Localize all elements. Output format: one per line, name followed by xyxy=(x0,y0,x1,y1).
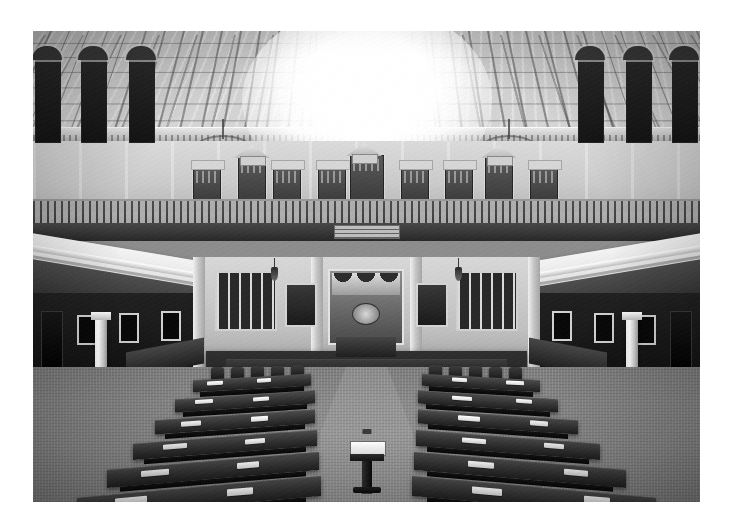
desk-papers xyxy=(141,469,169,477)
bay-window-left-2 xyxy=(81,57,107,143)
gallery-door-8 xyxy=(530,167,558,203)
gallery-door-1 xyxy=(193,167,221,203)
bay-window-left-1 xyxy=(35,57,61,143)
gallery-doorway-row xyxy=(33,151,700,203)
gallery-door-4 xyxy=(318,167,346,203)
door-panes xyxy=(276,171,298,183)
desk-papers xyxy=(544,443,564,450)
desk-papers xyxy=(163,443,187,450)
rear-portrait-right xyxy=(416,283,448,327)
door-panes xyxy=(353,159,381,171)
desk-papers xyxy=(564,469,588,477)
desk-papers xyxy=(462,437,486,444)
desk-papers xyxy=(452,377,467,382)
lectern-band xyxy=(350,454,384,461)
desk-papers xyxy=(468,461,494,469)
desk-papers xyxy=(472,486,502,496)
desk-papers xyxy=(227,487,253,496)
rear-portrait-left xyxy=(285,283,317,327)
desk-papers xyxy=(115,496,147,502)
chamber-lectern xyxy=(350,441,384,493)
door-panes xyxy=(321,171,343,183)
desk-papers xyxy=(516,399,532,404)
gallery-door-7 xyxy=(485,157,513,203)
state-seal-icon xyxy=(352,303,380,325)
flag-swag xyxy=(332,273,400,295)
gallery-door-center xyxy=(350,155,384,203)
bay-window-right-1 xyxy=(672,57,698,143)
desk-papers xyxy=(251,416,268,422)
ceiling-glare-core xyxy=(292,55,442,125)
desk-papers xyxy=(530,420,548,426)
desk-papers xyxy=(458,415,480,422)
bay-window-right-3 xyxy=(578,57,604,143)
member-desk-field xyxy=(33,331,700,502)
desk-papers xyxy=(245,438,265,445)
lectern-base xyxy=(353,487,381,493)
electronic-voting-board-left xyxy=(215,271,277,331)
door-panes xyxy=(448,171,470,183)
desk-papers xyxy=(452,396,472,401)
gallery-door-6 xyxy=(445,167,473,203)
desk-papers xyxy=(195,399,213,404)
wall-lamp-right xyxy=(455,267,462,281)
gallery-door-2 xyxy=(238,157,266,203)
chamber-photograph xyxy=(33,31,700,502)
desk-papers xyxy=(253,396,269,401)
desk-row-1-right xyxy=(422,374,540,393)
lectern-post xyxy=(362,461,372,487)
bay-window-right-2 xyxy=(626,57,652,143)
electronic-voting-board-right xyxy=(456,271,518,331)
door-panes xyxy=(196,171,218,183)
desk-papers xyxy=(181,420,201,426)
page-root xyxy=(0,0,735,531)
gallery-door-5 xyxy=(401,167,429,203)
desk-papers xyxy=(506,380,524,385)
door-panes xyxy=(241,161,263,173)
door-panes xyxy=(488,161,510,173)
gallery-door-3 xyxy=(273,167,301,203)
desk-papers xyxy=(257,378,271,383)
desk-papers xyxy=(584,496,610,502)
door-panes xyxy=(404,171,426,183)
bay-window-left-3 xyxy=(129,57,155,143)
desk-papers xyxy=(237,461,259,469)
desk-papers xyxy=(207,381,223,386)
door-panes xyxy=(533,171,555,183)
